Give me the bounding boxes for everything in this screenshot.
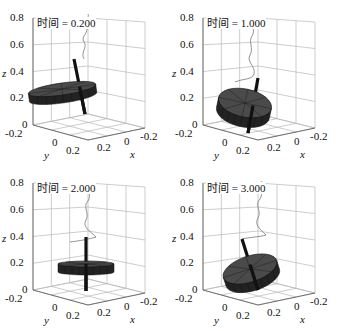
y-tick-label: 0 (52, 137, 58, 148)
subplot-p1: 0.80.60.40.20z-0.200.2y0.20-0.2x时间 = 0.2… (0, 0, 170, 165)
z-tick-label: 0 (22, 119, 28, 130)
time-label: 时间 = 1.000 (206, 17, 266, 29)
x-axis-label: x (300, 314, 305, 325)
y-axis-label: y (214, 150, 219, 161)
subplot-p3: 0.80.60.40.20z-0.200.2y0.20-0.2x时间 = 2.0… (0, 165, 170, 330)
grid (33, 18, 145, 140)
x-tick-label: 0 (124, 301, 130, 312)
x-axis-label: x (130, 314, 135, 325)
x-tick-label: -0.2 (140, 296, 157, 307)
y-tick-label: -0.2 (175, 293, 192, 304)
disk (27, 78, 97, 107)
x-tick-label: 0 (124, 136, 130, 147)
z-tick-label: 0.4 (180, 66, 194, 77)
z-tick-label: 0.8 (10, 12, 24, 23)
y-tick-label: 0 (222, 302, 228, 313)
z-tick-label: 0.4 (10, 231, 24, 242)
x-tick-label: 0 (294, 301, 300, 312)
z-tick-label: 0.2 (10, 92, 24, 103)
grid (33, 183, 145, 305)
x-tick-label: -0.2 (310, 131, 327, 142)
subplot-p4: 0.80.60.40.20z-0.200.2y0.20-0.2x时间 = 3.0… (170, 165, 340, 330)
z-tick-label: 0.6 (180, 39, 194, 50)
z-tick-label: 0.8 (180, 177, 194, 188)
z-tick-label: 0.8 (180, 12, 194, 23)
y-tick-label: 0.2 (236, 310, 250, 321)
x-tick-label: -0.2 (310, 296, 327, 307)
y-tick-label: 0.2 (66, 310, 80, 321)
y-tick-label: -0.2 (5, 293, 22, 304)
x-tick-label: -0.2 (140, 131, 157, 142)
time-label: 时间 = 2.000 (36, 182, 96, 194)
disk (214, 84, 275, 132)
y-tick-label: 0.2 (236, 145, 250, 156)
x-axis-label: x (300, 149, 305, 160)
y-tick-label: 0 (52, 302, 58, 313)
z-tick-label: 0.6 (10, 39, 24, 50)
y-axis-label: y (214, 315, 219, 326)
x-tick-label: 0.2 (267, 142, 281, 153)
z-axis-label: z (172, 233, 176, 244)
z-tick-label: 0 (192, 119, 198, 130)
z-tick-label: 0.6 (180, 204, 194, 215)
z-tick-label: 0.8 (10, 177, 24, 188)
x-tick-label: 0.2 (97, 307, 111, 318)
x-tick-label: 0.2 (97, 142, 111, 153)
z-tick-label: 0.2 (180, 92, 194, 103)
z-axis-label: z (2, 233, 6, 244)
time-label: 时间 = 3.000 (206, 182, 266, 194)
z-axis-label: z (2, 68, 6, 79)
z-axis-label: z (172, 68, 176, 79)
y-tick-label: -0.2 (5, 128, 22, 139)
z-tick-label: 0 (22, 284, 28, 295)
y-axis-label: y (44, 150, 49, 161)
z-tick-label: 0.2 (10, 257, 24, 268)
y-tick-label: 0 (222, 137, 228, 148)
y-axis-label: y (44, 315, 49, 326)
y-tick-label: -0.2 (175, 128, 192, 139)
z-tick-label: 0.6 (10, 204, 24, 215)
time-label: 时间 = 0.200 (36, 17, 96, 29)
z-tick-label: 0.4 (180, 231, 194, 242)
z-tick-label: 0.4 (10, 66, 24, 77)
subplot-p2: 0.80.60.40.20z-0.200.2y0.20-0.2x时间 = 1.0… (170, 0, 340, 165)
x-tick-label: 0 (294, 136, 300, 147)
x-tick-label: 0.2 (267, 307, 281, 318)
z-tick-label: 0.2 (180, 257, 194, 268)
y-tick-label: 0.2 (66, 145, 80, 156)
z-tick-label: 0 (192, 284, 198, 295)
x-axis-label: x (130, 149, 135, 160)
